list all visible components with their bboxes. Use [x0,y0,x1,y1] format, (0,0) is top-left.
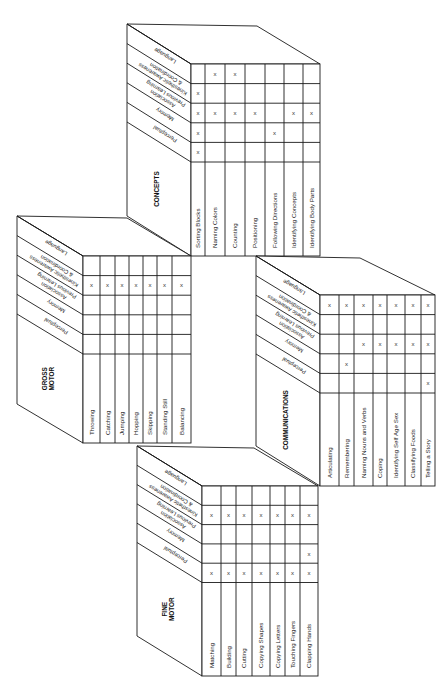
skill-label: Identifying Self Age Sex [392,412,399,478]
x-mark: x [273,130,276,136]
x-mark: x [90,282,93,288]
block-title-line: FINE [161,601,168,616]
skill-label: Identifying Concepts [290,192,297,248]
x-mark: x [214,71,217,77]
x-mark: x [210,570,213,576]
skill-label: Clapping Hands [305,624,312,668]
x-mark: x [427,341,430,347]
x-mark: x [227,570,230,576]
skill-label: Positioning [251,217,258,248]
x-mark: x [260,512,263,518]
skill-label: Following Directions [271,193,278,248]
x-mark: x [412,341,415,347]
x-mark: x [276,512,279,518]
skill-label: Coping [376,458,383,478]
x-mark: x [395,302,398,308]
skill-label: Identifying Body Parts [308,188,315,248]
skill-label: Naming Colors [211,207,218,248]
left-face [127,24,191,256]
x-mark: x [379,302,382,308]
skill-label: Skipping [146,411,153,435]
skill-label: Copying Letters [274,625,281,668]
block-gross-motor: LanguageKinesthetic Awareness& Coordinat… [17,216,191,443]
block-title: COMMUNICATIONS [282,390,289,450]
x-mark: x [254,110,257,116]
x-mark: x [180,282,183,288]
x-mark: x [362,302,365,308]
skill-label: Classifying Foods [409,429,416,478]
x-mark: x [243,570,246,576]
x-mark: x [379,341,382,347]
skill-label: Counting [231,223,238,248]
x-mark: x [227,512,230,518]
skill-label: Cutting [240,648,247,668]
x-mark: x [210,512,213,518]
x-mark: x [291,570,294,576]
x-mark: x [308,512,311,518]
skill-label: Naming Nouns and Verbs [360,407,367,478]
x-mark: x [197,110,200,116]
skill-label: Jumping [118,411,125,435]
block-fine-motor: LanguageKinesthetic Awareness& Coordinat… [137,446,318,676]
x-mark: x [427,302,430,308]
block-title-line: MOTOR [168,597,175,621]
x-mark: x [197,149,200,155]
x-mark: x [234,110,237,116]
block-title-line: CONCEPTS [153,171,160,207]
skills-matrix-diagram: LanguageKinesthetic Awareness& Coordinat… [0,0,441,691]
skill-label: Balancing [178,407,185,435]
block-title-line: GROSS [41,366,48,390]
block-title: GROSSMOTOR [41,366,55,390]
block-title-line: MOTOR [48,367,55,391]
x-mark: x [163,282,166,288]
x-mark: x [412,302,415,308]
skill-label: Touching Fingers [289,621,296,668]
x-mark: x [243,512,246,518]
skill-label: Throwing [88,409,95,435]
x-mark: x [106,282,109,288]
x-mark: x [149,282,152,288]
x-mark: x [234,71,237,77]
block-concepts: LanguageKinesthetic Awareness& Coordinat… [127,24,320,256]
x-mark: x [345,302,348,308]
x-mark: x [121,282,124,288]
x-mark: x [310,110,313,116]
block-title: CONCEPTS [153,171,160,207]
skill-label: Copying Shapes [257,623,264,668]
skill-label: Telling a Story [424,438,431,478]
block-communications: LanguageKinesthetic Awareness& Coordinat… [256,256,435,486]
x-mark: x [197,130,200,136]
x-mark: x [328,302,331,308]
x-mark: x [276,570,279,576]
skill-label: Building [225,645,232,668]
x-mark: x [345,361,348,367]
skill-label: Hopping [132,411,139,435]
x-mark: x [292,110,295,116]
skill-label: Catching [104,410,111,435]
x-mark: x [135,282,138,288]
x-mark: x [260,570,263,576]
x-mark: x [395,341,398,347]
skill-label: Matching [208,642,215,668]
skill-label: Sorting Blocks [194,208,201,248]
x-mark: x [214,110,217,116]
diagram-canvas: LanguageKinesthetic Awareness& Coordinat… [0,0,441,691]
x-mark: x [291,512,294,518]
left-face [256,256,320,486]
skill-label: Remembering [343,439,350,478]
x-mark: x [427,380,430,386]
x-mark: x [308,551,311,557]
skill-label: Standing Still [161,399,168,435]
block-title-line: COMMUNICATIONS [282,390,289,450]
x-mark: x [197,90,200,96]
front-face [320,295,435,486]
x-mark: x [362,341,365,347]
x-mark: x [308,570,311,576]
skill-label: Articulating [326,447,333,478]
